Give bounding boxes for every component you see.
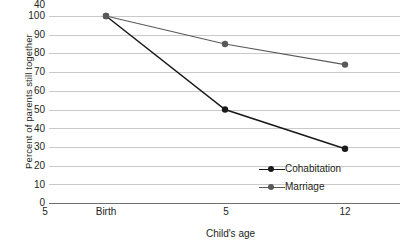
x-tick-label-5: 5 xyxy=(181,206,271,217)
y-tick-label-30: 30 xyxy=(5,142,45,152)
legend-marker-marriage-icon xyxy=(259,182,285,192)
y-tick-label-70: 70 xyxy=(5,67,45,77)
data-point-cohabitation-5 xyxy=(222,106,228,112)
data-point-marriage-5 xyxy=(222,41,228,47)
y-tick-label-10: 10 xyxy=(5,180,45,190)
y-tick-label-40: 40 xyxy=(5,0,45,10)
data-point-cohabitation-12 xyxy=(342,146,348,152)
y-tick-label-100: 100 xyxy=(5,11,45,21)
y-tick-label-50: 50 xyxy=(5,105,45,115)
y-tick-label-60: 60 xyxy=(5,86,45,96)
x-tick-label-12: 12 xyxy=(300,206,390,217)
legend-item-marriage[interactable]: Marriage xyxy=(259,178,379,196)
legend: Cohabitation Marriage xyxy=(259,160,379,196)
x-tick-label-5: 5 xyxy=(0,206,90,217)
legend-item-cohabitation[interactable]: Cohabitation xyxy=(259,160,379,178)
y-tick-label-20: 20 xyxy=(5,161,45,171)
series-line-marriage xyxy=(106,16,345,65)
y-tick-label-80: 80 xyxy=(5,48,45,58)
legend-marker-cohabitation-icon xyxy=(259,164,285,174)
legend-label-cohabitation: Cohabitation xyxy=(285,164,341,174)
y-tick-label-40: 40 xyxy=(5,124,45,134)
legend-label-marriage: Marriage xyxy=(285,182,324,192)
series-line-cohabitation xyxy=(106,16,345,149)
y-tick-label-90: 90 xyxy=(5,30,45,40)
x-axis-line xyxy=(49,203,400,204)
line-chart: Percent of parents still together 100 90… xyxy=(0,0,419,249)
data-point-marriage-Birth xyxy=(103,13,109,19)
data-point-marriage-12 xyxy=(342,61,348,67)
x-axis-title: Child's age xyxy=(0,228,419,239)
